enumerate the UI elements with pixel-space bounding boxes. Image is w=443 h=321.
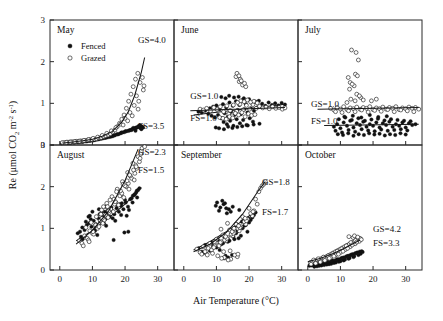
data-point-fenced <box>122 207 126 211</box>
data-point-fenced <box>232 96 236 100</box>
data-point-grazed <box>332 254 336 258</box>
data-point-fenced <box>351 114 355 118</box>
panel-data-september <box>194 180 268 262</box>
x-tick-label: 0 <box>306 274 311 284</box>
panel-data-august <box>76 145 147 248</box>
data-point-fenced <box>343 115 347 119</box>
y-axis-title-text: Re (μmol CO2 m-2 s-1) <box>7 101 20 189</box>
data-point-fenced <box>377 115 381 119</box>
data-point-grazed <box>239 79 243 83</box>
data-point-grazed <box>361 98 365 102</box>
data-point-fenced <box>373 133 377 137</box>
data-point-fenced <box>388 132 392 136</box>
data-point-fenced <box>127 208 131 212</box>
data-point-fenced <box>350 118 354 122</box>
data-point-grazed <box>334 110 338 114</box>
annotation-gs-august: GS=2.3 <box>138 147 166 157</box>
data-point-grazed <box>132 178 136 182</box>
data-point-grazed <box>359 238 363 242</box>
data-point-grazed <box>350 48 354 52</box>
x-tick-label: 10 <box>336 274 346 284</box>
data-point-grazed <box>369 99 373 103</box>
data-point-grazed <box>217 244 221 248</box>
data-point-fenced <box>339 260 343 264</box>
data-point-fenced <box>406 129 410 133</box>
data-point-fenced <box>114 219 118 223</box>
data-point-grazed <box>243 216 247 220</box>
data-point-fenced <box>393 128 397 132</box>
data-point-fenced <box>409 120 413 124</box>
data-point-grazed <box>129 92 133 96</box>
data-point-grazed <box>232 226 236 230</box>
data-point-grazed <box>251 210 255 214</box>
data-point-fenced <box>258 122 262 126</box>
data-point-fenced <box>231 126 235 130</box>
annotation-gs-june: GS=1.0 <box>190 91 218 101</box>
data-point-fenced <box>337 117 341 121</box>
data-point-fenced <box>238 122 242 126</box>
legend-marker-fenced <box>68 44 72 48</box>
data-point-fenced <box>353 130 357 134</box>
data-point-fenced <box>91 210 95 214</box>
panel-title-october: October <box>305 150 336 160</box>
data-point-fenced <box>217 209 221 213</box>
data-point-fenced <box>228 101 232 105</box>
data-point-fenced <box>237 95 241 99</box>
data-point-grazed <box>142 84 146 88</box>
data-point-grazed <box>137 99 141 103</box>
data-point-fenced <box>352 126 356 130</box>
data-point-grazed <box>350 82 354 86</box>
data-point-grazed <box>255 101 259 105</box>
data-point-grazed <box>216 254 220 258</box>
data-point-fenced <box>252 123 256 127</box>
data-point-fenced <box>226 125 230 129</box>
data-point-fenced <box>360 116 364 120</box>
series-grazed-may <box>60 71 145 144</box>
data-point-fenced <box>357 132 361 136</box>
panel-title-june: June <box>181 25 198 35</box>
data-point-fenced <box>238 208 242 212</box>
data-point-fenced <box>383 119 387 123</box>
data-point-grazed <box>122 196 126 200</box>
data-point-fenced <box>236 125 240 129</box>
data-point-grazed <box>134 77 138 81</box>
data-point-fenced <box>393 133 397 137</box>
data-point-grazed <box>111 210 115 214</box>
data-point-grazed <box>226 258 230 262</box>
y-tick-label: 3 <box>41 140 46 150</box>
y-tick-label: 2 <box>41 182 46 192</box>
data-point-grazed <box>130 114 134 118</box>
data-point-grazed <box>222 110 226 114</box>
data-point-grazed <box>84 226 88 230</box>
data-point-fenced <box>385 115 389 119</box>
data-point-grazed <box>89 221 93 225</box>
annotation-fs-september: FS=1.7 <box>262 207 289 217</box>
data-point-grazed <box>342 105 346 109</box>
data-point-fenced <box>214 204 218 208</box>
data-point-grazed <box>347 109 351 113</box>
data-point-grazed <box>108 198 112 202</box>
legend: FencedGrazed <box>68 41 106 63</box>
data-point-fenced <box>267 101 271 105</box>
data-point-grazed <box>349 97 353 101</box>
data-point-fenced <box>402 119 406 123</box>
data-point-fenced <box>341 133 345 137</box>
data-point-fenced <box>399 127 403 131</box>
data-point-fenced <box>246 124 250 128</box>
data-point-grazed <box>346 76 350 80</box>
respiration-temperature-scatter-figure: 01230123010203001020300102030MayJuneJuly… <box>0 0 443 321</box>
data-point-fenced <box>119 213 123 217</box>
data-point-grazed <box>121 123 125 127</box>
y-tick-label: 1 <box>41 223 46 233</box>
data-point-fenced <box>229 210 233 214</box>
data-point-fenced <box>96 233 100 237</box>
data-point-grazed <box>231 103 235 107</box>
data-point-grazed <box>231 116 235 120</box>
data-point-grazed <box>357 94 361 98</box>
data-point-grazed <box>253 113 257 117</box>
data-point-fenced <box>125 214 128 218</box>
data-point-fenced <box>240 125 244 129</box>
data-point-fenced <box>134 129 138 133</box>
data-point-grazed <box>323 258 327 262</box>
data-point-fenced <box>325 263 329 267</box>
